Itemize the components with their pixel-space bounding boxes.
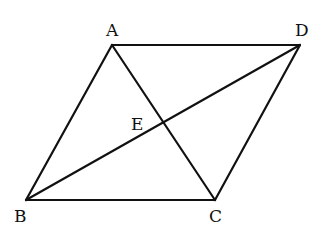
- label-e: E: [131, 114, 143, 134]
- label-b: B: [14, 206, 27, 226]
- label-a: A: [105, 20, 119, 40]
- label-c: C: [209, 206, 222, 226]
- segment-bd: [26, 45, 300, 200]
- segments: [26, 45, 300, 200]
- label-d: D: [295, 20, 309, 40]
- geometry-diagram: A D B C E: [0, 0, 330, 230]
